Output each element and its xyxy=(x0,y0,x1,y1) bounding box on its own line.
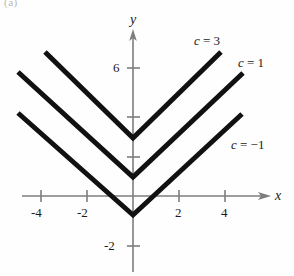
curve-label-c-equals-3: c = 3 xyxy=(194,34,220,47)
curve-c-equals-1 xyxy=(18,72,243,177)
curve-c-equals-minus-1 xyxy=(18,113,242,215)
x-tick-label-2: 2 xyxy=(175,206,182,219)
y-tick-label-6: 6 xyxy=(113,61,120,74)
y-axis-label: y xyxy=(130,13,136,27)
x-axis-label: x xyxy=(275,189,281,203)
curve-label-value: = 1 xyxy=(244,55,264,70)
y-tick-label--2: -2 xyxy=(104,239,115,252)
curve-label-c-equals-minus-1: c = −1 xyxy=(231,138,264,151)
curve-label-c-equals-1: c = 1 xyxy=(238,56,264,69)
x-tick-label--2: -2 xyxy=(77,206,88,219)
curve-label-value: = −1 xyxy=(237,137,265,152)
x-tick-label-4: 4 xyxy=(221,206,228,219)
graph-figure: (a) y x -4 -2 2 4 6 -2 c = xyxy=(0,0,294,276)
x-tick-label--4: -4 xyxy=(31,206,42,219)
curve-label-value: = 3 xyxy=(200,33,220,48)
